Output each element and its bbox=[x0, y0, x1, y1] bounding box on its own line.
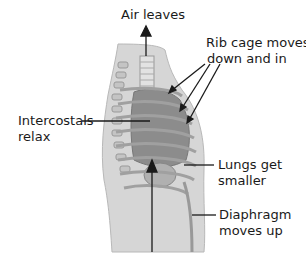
label-lungs-line1: Lungs get bbox=[218, 157, 282, 173]
label-rib-cage-line2: down and in bbox=[207, 51, 287, 67]
label-lungs-line2: smaller bbox=[218, 173, 266, 189]
label-diaphragm-line1: Diaphragm bbox=[219, 207, 291, 223]
label-diaphragm-line2: moves up bbox=[219, 223, 283, 239]
label-intercostals-line1: Intercostals bbox=[18, 113, 94, 129]
label-intercostals-line2: relax bbox=[18, 129, 50, 145]
label-rib-cage-line1: Rib cage moves bbox=[206, 35, 306, 51]
label-air-leaves: Air leaves bbox=[121, 7, 185, 23]
